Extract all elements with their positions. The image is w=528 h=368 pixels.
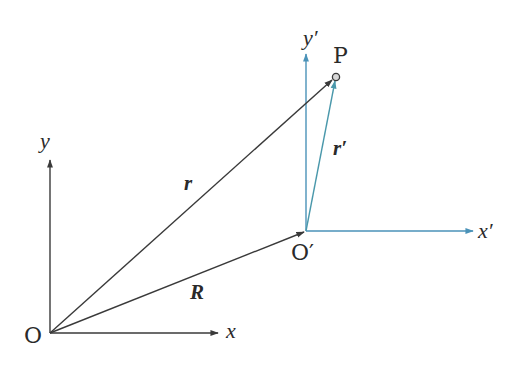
label-x-prime-axis: x′: [477, 218, 494, 243]
label-point-P: P: [333, 43, 348, 68]
vector-R: [50, 232, 304, 333]
label-vector-r: r: [184, 171, 193, 195]
reference-frames-diagram: O x y O′ x′ y′ P r R r′: [0, 0, 528, 368]
label-vector-R: R: [189, 280, 204, 304]
point-P-marker: [332, 73, 339, 80]
label-x-axis: x: [225, 318, 236, 343]
vector-r-prime: [306, 81, 335, 231]
label-origin: O: [24, 323, 42, 348]
label-origin-prime: O′: [291, 240, 314, 265]
label-vector-r-prime: r′: [333, 136, 347, 160]
label-y-axis: y: [38, 128, 50, 153]
frame-O: [50, 160, 218, 333]
label-y-prime-axis: y′: [301, 25, 319, 50]
